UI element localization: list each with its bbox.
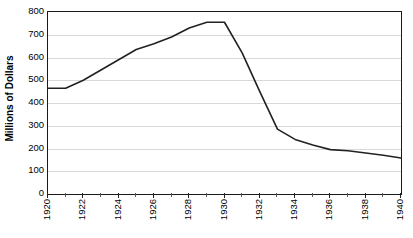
y-axis-tick-label: 600	[16, 52, 44, 62]
x-axis-tick-label-text: 1936	[323, 199, 335, 220]
x-axis-tick-mark	[118, 193, 119, 198]
x-axis-tick-label-text: 1934	[288, 199, 300, 220]
x-axis-tick-mark	[382, 193, 383, 197]
x-axis-tick-mark	[135, 193, 136, 197]
x-axis-tick-mark	[329, 193, 330, 198]
x-axis-tick-mark	[100, 193, 101, 197]
y-axis-title-label: Millions of Dollars	[4, 55, 15, 141]
y-axis-tick-label: 700	[16, 29, 44, 39]
x-axis-tick-mark	[188, 193, 189, 198]
x-axis-tick-mark	[171, 193, 172, 197]
plot-area	[47, 11, 402, 195]
x-axis-tick-marks	[47, 193, 400, 198]
x-axis-tick-label: 1928	[182, 199, 194, 237]
y-axis-tick-label: 500	[16, 74, 44, 84]
x-axis-tick-mark	[206, 193, 207, 197]
x-axis-tick-label-text: 1924	[112, 199, 124, 220]
x-axis-tick-label: 1934	[288, 199, 300, 237]
x-axis-tick-label-text: 1928	[182, 199, 194, 220]
x-axis-tick-mark	[400, 193, 401, 198]
x-axis-tick-mark	[82, 193, 83, 198]
x-axis-tick-mark	[312, 193, 313, 197]
x-axis-tick-label: 1920	[41, 199, 53, 237]
line-chart: Millions of Dollars 01002003004005006007…	[0, 0, 413, 238]
x-axis-tick-label-text: 1930	[218, 199, 230, 220]
x-axis-tick-mark	[47, 193, 48, 198]
y-axis-tick-label: 200	[16, 143, 44, 153]
x-axis-tick-label-text: 1932	[253, 199, 265, 220]
x-axis-tick-label-text: 1926	[147, 199, 159, 220]
x-axis-tick-label: 1924	[112, 199, 124, 237]
x-axis-tick-label: 1938	[359, 199, 371, 237]
y-axis-tick-label: 0	[16, 188, 44, 198]
x-axis-tick-label-text: 1940	[394, 199, 406, 220]
x-axis-tick-label-text: 1938	[359, 199, 371, 220]
x-axis-tick-mark	[347, 193, 348, 197]
y-axis-tick-label: 400	[16, 97, 44, 107]
x-axis-tick-label: 1922	[76, 199, 88, 237]
x-axis-tick-mark	[153, 193, 154, 198]
series-polyline	[48, 22, 401, 158]
x-axis-tick-label-text: 1920	[41, 199, 53, 220]
x-axis-tick-mark	[276, 193, 277, 197]
x-axis-tick-labels: 1920192219241926192819301932193419361938…	[47, 199, 400, 238]
x-axis-tick-mark	[241, 193, 242, 197]
x-axis-tick-label: 1926	[147, 199, 159, 237]
x-axis-tick-mark	[294, 193, 295, 198]
x-axis-tick-label-text: 1922	[76, 199, 88, 220]
x-axis-tick-mark	[224, 193, 225, 198]
y-axis-tick-label: 300	[16, 120, 44, 130]
x-axis-tick-label: 1932	[253, 199, 265, 237]
x-axis-tick-label: 1940	[394, 199, 406, 237]
x-axis-tick-label: 1936	[323, 199, 335, 237]
x-axis-tick-label: 1930	[218, 199, 230, 237]
y-axis-tick-label: 800	[16, 6, 44, 16]
y-axis-tick-labels: 0100200300400500600700800	[16, 0, 44, 196]
y-axis-tick-label: 100	[16, 165, 44, 175]
x-axis-tick-mark	[259, 193, 260, 198]
x-axis-tick-mark	[65, 193, 66, 197]
data-series-line	[48, 12, 401, 194]
x-axis-tick-mark	[365, 193, 366, 198]
